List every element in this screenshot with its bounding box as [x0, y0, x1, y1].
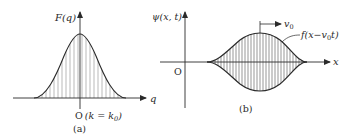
velocity-label: v0	[284, 18, 294, 31]
origin-label-a: O	[75, 110, 83, 121]
caption-b: (b)	[239, 103, 253, 114]
f-of-q-label: F(q)	[54, 12, 76, 23]
panel-a-fourier-spectrum: F(q) q O(k = k0) (a)	[13, 12, 156, 134]
psi-label: ψ(x, t)	[152, 11, 182, 22]
origin-annotation-a: O(k = k0)	[75, 110, 122, 123]
envelope-leader-line	[282, 35, 300, 42]
caption-a: (a)	[73, 123, 86, 134]
wave-packet-diagram: F(q) q O(k = k0) (a)	[0, 0, 354, 140]
q-axis-label: q	[150, 93, 156, 104]
envelope-label: f(x−v0t)	[300, 29, 339, 42]
origin-label-b: O	[174, 66, 182, 77]
x-axis-label: x	[333, 56, 339, 67]
panel-b-wave-packet: v0 f(x−v0t) ψ(x, t) x O (b)	[152, 11, 339, 114]
